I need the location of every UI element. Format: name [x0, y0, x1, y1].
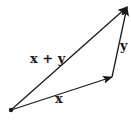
- vector-x-plus-y-arrow: [11, 7, 127, 110]
- vector-addition-diagram: x + y x y: [0, 0, 131, 125]
- label-x: x: [55, 91, 63, 106]
- label-x-plus-y: x + y: [30, 51, 66, 66]
- label-y: y: [119, 38, 128, 53]
